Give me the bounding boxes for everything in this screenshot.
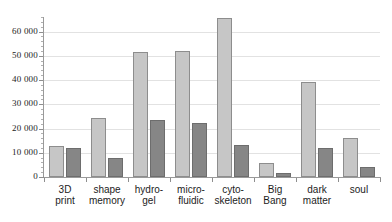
bar [217, 18, 232, 177]
bar [66, 148, 81, 177]
gridline [44, 80, 380, 81]
x-axis-tick-mark [338, 178, 339, 182]
bar [175, 51, 190, 177]
gridline [44, 104, 380, 105]
chart-page: 010 00020 00030 00040 00050 00060 000 3D… [0, 0, 392, 222]
y-axis-tick-label: 0 [0, 171, 38, 181]
y-axis-tick-label: 10 000 [0, 147, 38, 157]
bar [360, 167, 375, 177]
y-axis-tick-label: 40 000 [0, 74, 38, 84]
bar [318, 148, 333, 177]
bar [234, 145, 249, 177]
y-axis-tick-label: 20 000 [0, 123, 38, 133]
bar [108, 158, 123, 177]
x-axis-tick-mark [170, 178, 171, 182]
x-axis-tick-mark [44, 178, 45, 182]
x-axis-tick-mark [296, 178, 297, 182]
bar [91, 118, 106, 177]
plot-area [44, 17, 380, 177]
bar [259, 163, 274, 177]
bar [343, 138, 358, 177]
y-axis-tick-label: 30 000 [0, 98, 38, 108]
bar [301, 82, 316, 177]
bar [150, 120, 165, 177]
x-axis-category-label: soul [332, 184, 386, 195]
x-axis-tick-mark [212, 178, 213, 182]
bar [49, 146, 64, 177]
gridline [44, 32, 380, 33]
y-axis-tick-label: 60 000 [0, 26, 38, 36]
x-axis-tick-mark [86, 178, 87, 182]
gridline [44, 56, 380, 57]
x-axis-tick-mark [380, 178, 381, 182]
bar [192, 123, 207, 177]
y-axis-line [43, 17, 44, 177]
x-axis-tick-mark [254, 178, 255, 182]
x-axis-tick-mark [128, 178, 129, 182]
bar [133, 52, 148, 177]
y-axis-tick-label: 50 000 [0, 50, 38, 60]
